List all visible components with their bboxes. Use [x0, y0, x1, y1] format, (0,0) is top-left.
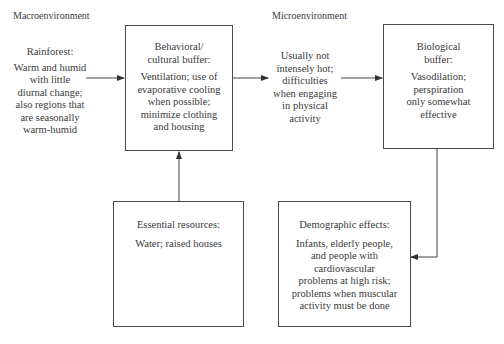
behavioral-title-line: cultural buffer: — [126, 54, 232, 67]
micro-condition-line: in physical — [266, 100, 344, 113]
behavioral-body: Ventilation; use of evaporative cooling … — [126, 71, 232, 134]
micro-condition-node: Usually not intensely hot; difficulties … — [266, 50, 344, 125]
arrow-biological-to-demographic — [411, 149, 437, 257]
behavioral-title-line: Behavioral/ — [126, 41, 232, 54]
demographic-line: problems when muscular — [279, 288, 410, 301]
micro-condition-line: intensely hot; — [266, 63, 344, 76]
demographic-line: and people with — [279, 250, 410, 263]
biological-title: Biological buffer: — [384, 41, 493, 66]
demographic-body: Infants, elderly people, and people with… — [279, 238, 410, 313]
rainforest-line: Warm and humid — [6, 62, 94, 75]
rainforest-line: warm-humid — [6, 124, 94, 137]
behavioral-line: minimize clothing — [126, 109, 232, 122]
rainforest-node: Rainforest: Warm and humid with little d… — [6, 46, 94, 137]
behavioral-line: and housing — [126, 121, 232, 134]
rainforest-line: with little — [6, 74, 94, 87]
essential-line: Water; raised houses — [114, 238, 243, 251]
demographic-line: activity must be done — [279, 300, 410, 313]
essential-title: Essential resources: — [114, 219, 243, 232]
biological-line: perspiration — [384, 84, 493, 97]
rainforest-title: Rainforest: — [6, 46, 94, 59]
biological-line: effective — [384, 109, 493, 122]
behavioral-line: evaporative cooling — [126, 84, 232, 97]
biological-title-line: Biological — [384, 41, 493, 54]
micro-condition-line: activity — [266, 113, 344, 126]
biological-line: Vasodilation; — [384, 71, 493, 84]
biological-line: only somewhat — [384, 96, 493, 109]
demographic-line: problems at high risk; — [279, 275, 410, 288]
behavioral-line: Ventilation; use of — [126, 71, 232, 84]
biological-body: Vasodilation; perspiration only somewhat… — [384, 71, 493, 121]
demographic-effects-box: Demographic effects: Infants, elderly pe… — [278, 201, 411, 327]
biological-buffer-box: Biological buffer: Vasodilation; perspir… — [383, 24, 494, 149]
rainforest-line: are seasonally — [6, 112, 94, 125]
biological-title-line: buffer: — [384, 54, 493, 67]
behavioral-line: when possible; — [126, 96, 232, 109]
essential-resources-box: Essential resources: Water; raised house… — [113, 201, 244, 327]
demographic-line: Infants, elderly people, — [279, 238, 410, 251]
demographic-title: Demographic effects: — [279, 219, 410, 232]
micro-condition-line: Usually not — [266, 50, 344, 63]
behavioral-buffer-box: Behavioral/ cultural buffer: Ventilation… — [125, 25, 233, 151]
demographic-line: cardiovascular — [279, 263, 410, 276]
micro-condition-line: difficulties — [266, 75, 344, 88]
behavioral-title: Behavioral/ cultural buffer: — [126, 41, 232, 66]
rainforest-line: also regions that — [6, 99, 94, 112]
micro-condition-line: when engaging — [266, 88, 344, 101]
rainforest-line: diurnal change; — [6, 87, 94, 100]
